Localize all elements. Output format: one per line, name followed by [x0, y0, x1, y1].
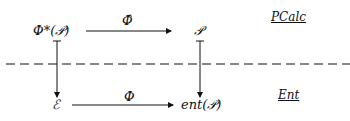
node-e: ℰ [52, 98, 60, 112]
node-ent-p: ent(𝒫) [181, 98, 221, 112]
region-label-ent: Ent [278, 88, 299, 102]
edge-label-phi-hat: Φ̂ [122, 14, 133, 28]
node-phi-star-p: Φ*(𝒫) [33, 24, 69, 38]
edge-label-phi: Φ [124, 90, 135, 104]
node-p: 𝒫 [194, 24, 203, 38]
region-label-pcalc: PCalc [271, 10, 306, 24]
